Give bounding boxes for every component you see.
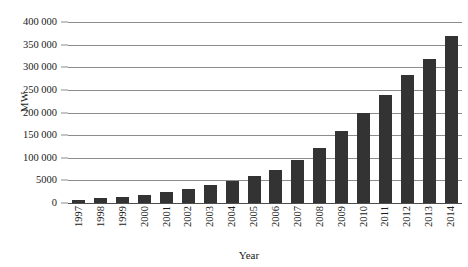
bar [182,189,195,203]
bar-slot [199,22,221,203]
bar-slot [265,22,287,203]
y-tick-label: 250 000 [0,85,57,96]
bar [313,148,326,203]
x-tick-label: 2014 [446,206,457,227]
bar [335,131,348,203]
bar [291,160,304,203]
x-tick-label: 2008 [314,206,325,227]
bar [445,36,458,203]
bar-slot [374,22,396,203]
x-tick-label: 1999 [117,206,128,227]
bar-slot [287,22,309,203]
y-tick-mark [61,203,68,204]
bar-slot [353,22,375,203]
bar-slot [221,22,243,203]
x-label-slot: 2007 [287,206,309,248]
y-tick-mark [61,112,68,113]
x-tick-label: 1997 [74,206,85,227]
x-tick-label: 2003 [205,206,216,227]
bar [357,113,370,203]
y-tick-mark [61,67,68,68]
bar-slot [90,22,112,203]
axis-baseline [68,203,462,204]
y-tick-mark [61,22,68,23]
x-label-slot: 2013 [418,206,440,248]
bar [248,176,261,203]
x-label-slot: 1999 [112,206,134,248]
y-tick-label: 200 000 [0,107,57,118]
x-label-slot: 2003 [199,206,221,248]
x-label-slot: 2004 [221,206,243,248]
bar [94,198,107,203]
bar-slot [331,22,353,203]
bar [226,181,239,203]
bar-slot [112,22,134,203]
x-tick-label: 2004 [227,206,238,227]
x-label-slot: 2008 [309,206,331,248]
x-axis-tick-labels: 1997199819992000200120022003200420052006… [68,206,462,248]
bar [72,200,85,203]
x-label-slot: 2001 [156,206,178,248]
y-tick-label: 150 000 [0,130,57,141]
x-label-slot: 2009 [331,206,353,248]
x-axis-title: Year [0,249,468,261]
y-tick-mark [61,157,68,158]
x-tick-label: 2007 [293,206,304,227]
x-tick-label: 2006 [271,206,282,227]
x-label-slot: 2010 [353,206,375,248]
x-tick-label: 2012 [402,206,413,227]
x-tick-label: 2005 [249,206,260,227]
bar-slot [156,22,178,203]
bar-slot [134,22,156,203]
bar-slot [396,22,418,203]
bar [160,192,173,203]
y-tick-label: 100 000 [0,153,57,164]
y-tick-mark [61,44,68,45]
y-tick-mark [61,135,68,136]
bar-slot [309,22,331,203]
bar-chart-figure: MW 05000100 000150 000200 000250 000300 … [0,0,468,267]
x-label-slot: 2006 [265,206,287,248]
x-tick-label: 1998 [96,206,107,227]
y-tick-mark [61,180,68,181]
x-tick-label: 2013 [424,206,435,227]
y-tick-mark [61,89,68,90]
bar [138,195,151,203]
bars-group [68,22,462,203]
x-label-slot: 2000 [134,206,156,248]
x-label-slot: 1997 [68,206,90,248]
y-tick-label: 400 000 [0,17,57,28]
x-label-slot: 2014 [440,206,462,248]
x-tick-label: 2000 [139,206,150,227]
x-tick-label: 2010 [358,206,369,227]
x-label-slot: 2012 [396,206,418,248]
plot-area: 05000100 000150 000200 000250 000300 000… [68,22,462,203]
y-tick-label: 0 [0,198,57,209]
x-tick-label: 2009 [336,206,347,227]
bar [379,95,392,203]
x-tick-label: 2001 [161,206,172,227]
bar-slot [418,22,440,203]
x-label-slot: 2011 [374,206,396,248]
bar-slot [68,22,90,203]
bar-slot [177,22,199,203]
y-tick-label: 5000 [0,175,57,186]
x-label-slot: 2005 [243,206,265,248]
x-label-slot: 1998 [90,206,112,248]
bar [401,75,414,203]
y-tick-label: 300 000 [0,62,57,73]
bar [204,185,217,203]
x-label-slot: 2002 [177,206,199,248]
bar [116,197,129,203]
bar [269,170,282,203]
y-tick-label: 350 000 [0,39,57,50]
x-tick-label: 2011 [380,206,391,227]
bar-slot [243,22,265,203]
x-tick-label: 2002 [183,206,194,227]
bar-slot [440,22,462,203]
bar [423,59,436,203]
